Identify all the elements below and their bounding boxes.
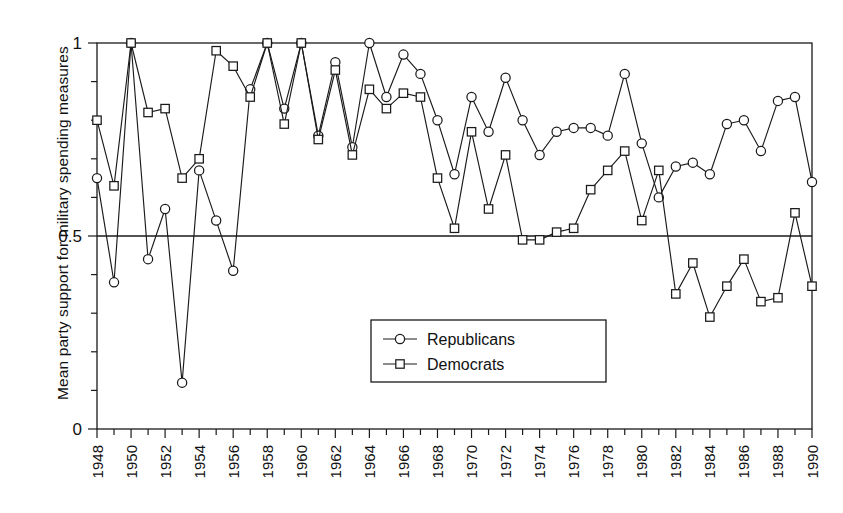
data-point-square xyxy=(484,205,492,213)
data-point-square xyxy=(638,216,646,224)
data-point-square xyxy=(365,85,373,93)
legend-label: Republicans xyxy=(427,331,515,348)
data-point-square xyxy=(467,128,475,136)
x-tick-label: 1958 xyxy=(259,445,276,478)
data-point-square xyxy=(791,209,799,217)
data-point-circle xyxy=(756,146,765,155)
x-tick-label: 1970 xyxy=(463,445,480,478)
data-point-square xyxy=(433,174,441,182)
data-point-circle xyxy=(569,123,578,132)
chart-figure: Mean party support for military spending… xyxy=(0,0,843,513)
data-point-square xyxy=(723,282,731,290)
data-point-square xyxy=(399,89,407,97)
data-point-circle xyxy=(603,131,612,140)
chart-plot-area: 00.5119481950195219541956195819601962196… xyxy=(0,0,843,513)
data-point-square xyxy=(127,39,135,47)
data-point-square xyxy=(672,290,680,298)
data-point-square xyxy=(689,259,697,267)
x-tick-label: 1982 xyxy=(667,445,684,478)
legend: RepublicansDemocrats xyxy=(371,320,606,382)
data-point-square xyxy=(263,39,271,47)
series-democrats xyxy=(93,39,816,321)
x-tick-label: 1984 xyxy=(701,445,718,478)
data-point-circle xyxy=(552,127,561,136)
data-point-square xyxy=(229,62,237,70)
x-tick-label: 1948 xyxy=(89,445,106,478)
x-tick-label: 1978 xyxy=(599,445,616,478)
data-point-square xyxy=(655,166,663,174)
data-point-circle xyxy=(535,150,544,159)
data-point-square xyxy=(93,116,101,124)
x-tick-label: 1972 xyxy=(497,445,514,478)
data-point-circle xyxy=(92,174,101,183)
data-point-circle xyxy=(790,92,799,101)
data-point-square xyxy=(586,185,594,193)
data-point-square xyxy=(706,313,714,321)
x-tick-label: 1960 xyxy=(293,445,310,478)
data-point-square xyxy=(552,228,560,236)
data-point-square xyxy=(501,151,509,159)
data-point-circle xyxy=(637,139,646,148)
data-point-circle xyxy=(739,116,748,125)
data-point-circle xyxy=(705,170,714,179)
x-tick-label: 1980 xyxy=(633,445,650,478)
data-point-circle xyxy=(416,69,425,78)
y-axis-label: Mean party support for military spending… xyxy=(54,23,72,423)
data-point-circle xyxy=(484,127,493,136)
data-point-square xyxy=(110,182,118,190)
data-point-circle xyxy=(518,116,527,125)
x-tick-label: 1952 xyxy=(157,445,174,478)
data-point-square xyxy=(195,155,203,163)
data-point-circle xyxy=(501,73,510,82)
data-point-circle xyxy=(143,255,152,264)
data-point-square xyxy=(314,135,322,143)
y-tick-label: 0 xyxy=(73,420,82,439)
data-point-square xyxy=(621,147,629,155)
data-point-circle xyxy=(399,50,408,59)
data-point-square xyxy=(569,224,577,232)
data-point-square xyxy=(144,108,152,116)
data-point-circle xyxy=(195,166,204,175)
data-point-circle xyxy=(450,170,459,179)
data-point-square xyxy=(297,39,305,47)
data-point-square xyxy=(246,93,254,101)
x-tick-label: 1988 xyxy=(769,445,786,478)
y-tick-label: 1 xyxy=(73,34,82,53)
data-point-circle xyxy=(620,69,629,78)
data-point-square xyxy=(518,236,526,244)
data-point-circle xyxy=(671,162,680,171)
x-tick-label: 1986 xyxy=(735,445,752,478)
data-point-square xyxy=(382,104,390,112)
data-point-circle xyxy=(229,266,238,275)
data-point-circle xyxy=(109,278,118,287)
data-point-square xyxy=(604,166,612,174)
data-point-circle xyxy=(688,158,697,167)
x-tick-label: 1954 xyxy=(191,445,208,478)
data-point-square xyxy=(348,151,356,159)
legend-marker-circle xyxy=(395,334,404,343)
legend-label: Democrats xyxy=(427,356,504,373)
data-point-square xyxy=(450,224,458,232)
data-point-circle xyxy=(807,177,816,186)
data-point-circle xyxy=(178,378,187,387)
data-point-circle xyxy=(382,92,391,101)
data-point-circle xyxy=(773,96,782,105)
data-point-circle xyxy=(722,119,731,128)
legend-marker-square xyxy=(396,360,404,368)
data-point-square xyxy=(280,120,288,128)
data-point-circle xyxy=(467,92,476,101)
x-tick-label: 1974 xyxy=(531,445,548,478)
x-tick-label: 1964 xyxy=(361,445,378,478)
data-point-square xyxy=(774,294,782,302)
x-tick-label: 1968 xyxy=(429,445,446,478)
x-tick-label: 1962 xyxy=(327,445,344,478)
data-point-circle xyxy=(212,216,221,225)
data-point-circle xyxy=(160,204,169,213)
series-line xyxy=(97,43,812,317)
x-tick-label: 1956 xyxy=(225,445,242,478)
data-point-circle xyxy=(586,123,595,132)
data-point-square xyxy=(740,255,748,263)
data-point-square xyxy=(535,236,543,244)
data-point-circle xyxy=(433,116,442,125)
data-point-circle xyxy=(365,38,374,47)
